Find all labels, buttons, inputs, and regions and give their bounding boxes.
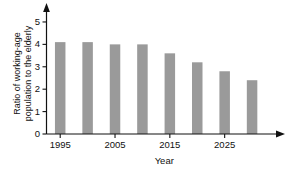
x-tick-label-2025: 2025: [214, 139, 235, 150]
y-tick-label-1: 1: [35, 106, 40, 117]
y-axis-arrow-icon: [43, 3, 50, 12]
bar-2025: [219, 71, 230, 134]
y-tick-label-0: 0: [35, 128, 40, 139]
bar-2020: [192, 62, 203, 134]
bar-2030: [247, 80, 258, 134]
x-axis-title: Year: [155, 155, 174, 166]
bar-1995: [55, 42, 65, 134]
y-tick-label-4: 4: [35, 38, 40, 49]
bar-chart-figure: 0123451995200520152025YearRatio of worki…: [0, 0, 289, 173]
chart-canvas: 0123451995200520152025YearRatio of worki…: [0, 0, 289, 173]
x-tick-label-2005: 2005: [104, 139, 125, 150]
bar-2010: [137, 44, 148, 134]
x-tick-label-2015: 2015: [159, 139, 180, 150]
bar-2000: [82, 42, 93, 134]
y-tick-label-3: 3: [35, 61, 40, 72]
y-tick-label-5: 5: [35, 16, 40, 27]
y-tick-label-2: 2: [35, 83, 40, 94]
y-axis-title-line-1: Ratio of working-age: [12, 32, 22, 115]
x-axis-arrow-icon: [276, 131, 285, 138]
y-axis-title-line-2: population to the elderly: [23, 25, 33, 121]
y-axis-title: Ratio of working-agepopulation to the el…: [12, 25, 33, 121]
bar-2015: [165, 53, 176, 134]
bar-2005: [110, 44, 121, 134]
x-tick-label-1995: 1995: [50, 139, 71, 150]
